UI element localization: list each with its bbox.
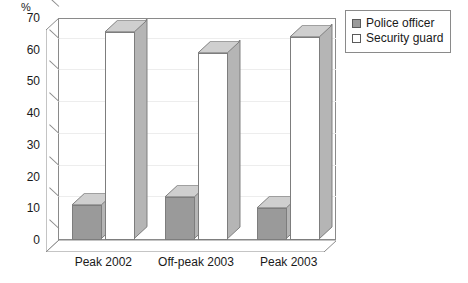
legend-item-label: Police officer — [366, 17, 434, 30]
plot-area — [46, 18, 336, 252]
legend-item: Police officer — [352, 16, 443, 31]
y-axis-tick-label: 0 — [14, 234, 40, 246]
legend: Police officerSecurity guard — [345, 10, 451, 53]
filled-square-icon — [352, 19, 361, 28]
y-axis-tick-label: 70 — [14, 12, 40, 24]
y-axis-tick-label: 60 — [14, 44, 40, 56]
y-axis-tick-label: 20 — [14, 171, 40, 183]
bar-front-face — [257, 208, 287, 240]
bar — [290, 25, 333, 240]
bar — [105, 20, 148, 240]
bar-chart: % 010203040506070 Peak 2002Off-peak 2003… — [0, 0, 468, 283]
y-axis-tick-label: 40 — [14, 107, 40, 119]
y-axis-tick-label: 50 — [14, 75, 40, 87]
bar-front-face — [72, 205, 102, 240]
legend-item: Security guard — [352, 31, 443, 46]
bar-side-face — [319, 24, 333, 240]
bar-side-face — [134, 19, 148, 240]
bar-front-face — [165, 197, 195, 240]
bar — [198, 41, 241, 240]
bar-front-face — [105, 32, 135, 240]
legend-item-label: Security guard — [366, 32, 443, 45]
y-axis-tick-label: 10 — [14, 202, 40, 214]
y-axis-tick-mark — [49, 0, 59, 7]
bar-front-face — [290, 37, 320, 240]
x-axis-category-label: Peak 2003 — [229, 256, 349, 269]
y-axis-tick-label: 30 — [14, 139, 40, 151]
bar-front-face — [198, 53, 228, 240]
legend-items: Police officerSecurity guard — [352, 16, 443, 46]
bar-side-face — [227, 40, 241, 240]
empty-square-icon — [352, 34, 361, 43]
